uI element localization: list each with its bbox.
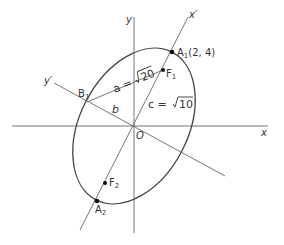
label-F1: F1	[166, 68, 176, 81]
y-prime-axis-label: y′	[43, 75, 53, 86]
label-F2: F2	[109, 177, 119, 190]
label-A1: A1(2, 4)	[177, 47, 215, 60]
x-prime-axis-label: x′	[188, 9, 198, 20]
label-A2: A2	[95, 204, 106, 217]
point-F2	[103, 181, 107, 185]
b-label: b	[112, 103, 119, 116]
y-axis-label: y	[125, 14, 133, 25]
c-label: c = 10	[148, 97, 193, 111]
point-F1	[161, 68, 165, 72]
ellipse-diagram: x y x′ y′ A1(2, 4) F1 B1 F2 A2 O a = 20 …	[0, 0, 284, 245]
svg-text:a =: a =	[111, 76, 134, 96]
svg-text:20: 20	[139, 67, 157, 84]
origin-label: O	[136, 130, 144, 141]
svg-text:c =: c =	[148, 98, 167, 111]
point-A1	[170, 50, 175, 55]
x-axis-label: x	[260, 127, 267, 138]
point-A2	[95, 199, 100, 204]
svg-text:10: 10	[179, 98, 193, 111]
